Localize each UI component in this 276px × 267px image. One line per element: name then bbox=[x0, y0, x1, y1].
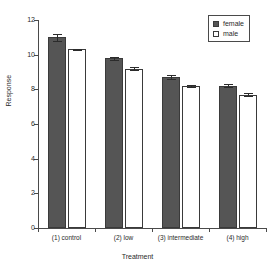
legend-item-female: female bbox=[213, 19, 244, 28]
legend-label-male: male bbox=[223, 29, 238, 38]
x-tick-mark bbox=[38, 228, 39, 232]
error-bar-cap-top bbox=[110, 57, 119, 58]
y-tick-label: 4 bbox=[31, 154, 35, 163]
error-bar-cap-bottom bbox=[187, 87, 196, 88]
error-bar-cap-top bbox=[244, 93, 253, 94]
bar-group bbox=[219, 20, 257, 228]
bar-group bbox=[105, 20, 143, 228]
bar-male bbox=[182, 86, 200, 228]
legend-label-female: female bbox=[223, 19, 244, 28]
bar-female bbox=[162, 77, 180, 228]
y-tick-label: 2 bbox=[31, 188, 35, 197]
x-tick-mark bbox=[152, 228, 153, 232]
x-tick-mark bbox=[209, 228, 210, 232]
bar-female bbox=[105, 58, 123, 228]
y-tick-label: 10 bbox=[27, 50, 35, 59]
error-bar-cap-bottom bbox=[167, 79, 176, 80]
bar-female bbox=[219, 86, 237, 228]
bar-female bbox=[48, 37, 66, 228]
bar-group bbox=[48, 20, 86, 228]
error-bar-line bbox=[57, 34, 58, 42]
y-tick-label: 8 bbox=[31, 84, 35, 93]
bar-male bbox=[125, 69, 143, 228]
legend-swatch-female-icon bbox=[213, 21, 219, 27]
error-bar-cap-bottom bbox=[110, 60, 119, 61]
y-tick-label: 6 bbox=[31, 119, 35, 128]
bar-male bbox=[68, 49, 86, 228]
error-bar-cap-top bbox=[167, 75, 176, 76]
error-bar-cap-bottom bbox=[73, 50, 82, 51]
y-tick-label: 12 bbox=[27, 15, 35, 24]
error-bar-cap-bottom bbox=[53, 41, 62, 42]
plot-area: 024681012 bbox=[38, 20, 266, 228]
bar-chart: Response Treatment 024681012 (1) control… bbox=[0, 0, 275, 267]
x-tick-mark bbox=[95, 228, 96, 232]
legend-item-male: male bbox=[213, 29, 244, 38]
bar-group bbox=[162, 20, 200, 228]
error-bar-cap-top bbox=[130, 67, 139, 68]
error-bar-cap-top bbox=[53, 34, 62, 35]
x-category-label: (4) high bbox=[198, 233, 276, 242]
legend-swatch-male-icon bbox=[213, 31, 219, 37]
y-tick-label: 0 bbox=[31, 223, 35, 232]
error-bar-cap-bottom bbox=[244, 96, 253, 97]
bar-male bbox=[239, 95, 257, 228]
x-tick-mark bbox=[266, 228, 267, 232]
error-bar-cap-top bbox=[224, 84, 233, 85]
error-bar-cap-bottom bbox=[224, 87, 233, 88]
chart-legend: female male bbox=[208, 15, 250, 42]
error-bar-cap-bottom bbox=[130, 70, 139, 71]
x-axis-title: Treatment bbox=[0, 252, 275, 261]
y-axis-title: Response bbox=[4, 95, 13, 107]
